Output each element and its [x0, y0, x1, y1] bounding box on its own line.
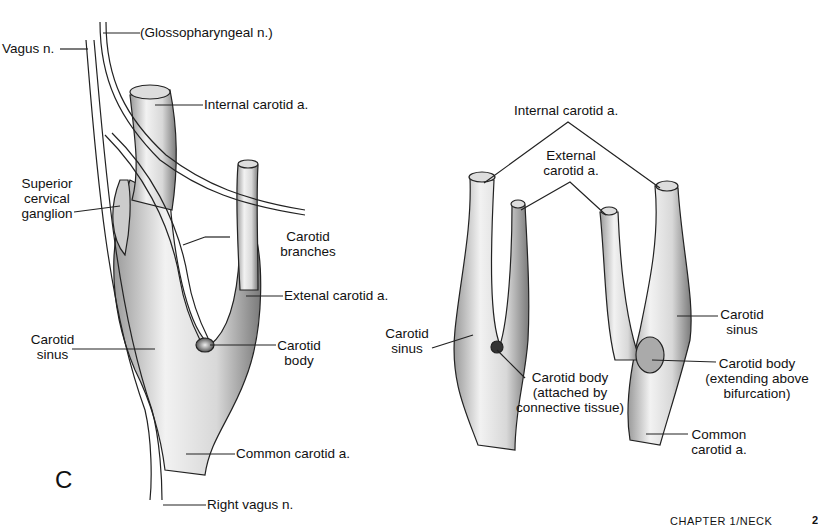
- label-vagus-nerve: Vagus n.: [2, 41, 54, 56]
- label-carotid-body-left: Carotid body: [275, 338, 323, 368]
- label-carotid-body-extending: Carotid body (extending above bifurcatio…: [702, 356, 812, 401]
- label-carotid-body-attached: Carotid body (attached by connective tis…: [510, 370, 630, 415]
- label-external-carotid-right: External carotid a.: [535, 148, 607, 178]
- left-external-carotid: [237, 165, 258, 290]
- label-carotid-sinus-left: Carotid sinus: [30, 332, 75, 362]
- label-external-carotid-left: Extenal carotid a.: [284, 288, 388, 303]
- figure-letter: C: [55, 466, 72, 494]
- label-common-carotid-left: Common carotid a.: [236, 446, 350, 461]
- label-internal-carotid-left: Internal carotid a.: [204, 97, 308, 112]
- label-common-carotid-right: Common carotid a.: [686, 427, 752, 457]
- label-carotid-sinus-right-b: Carotid sinus: [718, 307, 766, 337]
- label-carotid-sinus-right-a: Carotid sinus: [383, 326, 431, 356]
- running-head: CHAPTER 1/NECK: [670, 515, 772, 527]
- label-superior-cervical-ganglion: Superior cervical ganglion: [18, 176, 76, 221]
- page-number: 2: [812, 514, 818, 526]
- label-right-vagus-nerve: Right vagus n.: [207, 497, 293, 512]
- label-internal-carotid-right: Internal carotid a.: [514, 103, 618, 118]
- left-internal-carotid: [130, 90, 176, 210]
- label-glossopharyngeal-nerve: (Glossopharyngeal n.): [140, 25, 273, 40]
- label-carotid-branches: Carotid branches: [278, 229, 338, 259]
